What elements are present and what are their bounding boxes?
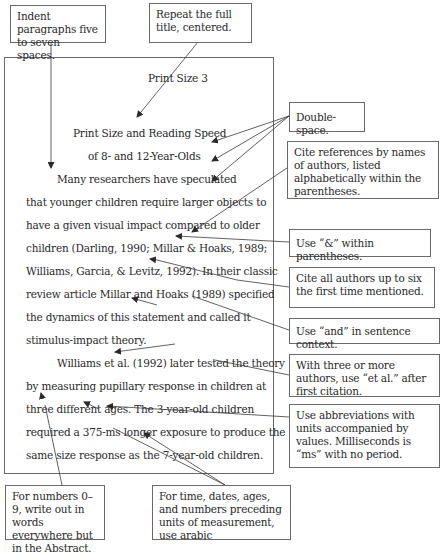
callout-use-ampersand: Use “&” within parentheses. xyxy=(289,229,431,257)
callout-arabic-numerals: For time, dates, ages, and numbers prece… xyxy=(152,485,291,540)
callout-et-al: With three or more authors, use “et al.”… xyxy=(289,354,440,397)
callout-use-and: Use “and” in sentence context. xyxy=(289,318,440,344)
title-line-2: of 8- and 12-Year-Olds xyxy=(88,150,201,162)
callout-cite-references: Cite references by names of authors, lis… xyxy=(287,141,439,199)
body-line: same size response as the 7-year-old chi… xyxy=(26,449,263,461)
title-line-1: Print Size and Reading Speed xyxy=(73,127,226,139)
body-line: Many researchers have speculated xyxy=(57,173,237,185)
body-line: required a 375-ms longer exposure to pro… xyxy=(26,426,285,438)
body-line: Williams et al. (1992) later tested the … xyxy=(57,357,285,369)
callout-double-space: Double-space. xyxy=(289,102,365,132)
body-line: the dynamics of this statement and calle… xyxy=(26,311,251,323)
body-line: three different ages. The 3-year-old chi… xyxy=(26,403,254,415)
body-line: children (Darling, 1990; Millar & Hoaks,… xyxy=(26,242,267,254)
body-line: stimulus-impact theory. xyxy=(26,334,146,346)
callout-repeat-title: Repeat the full title, centered. xyxy=(149,3,252,43)
body-line: that younger children require larger obj… xyxy=(26,196,266,208)
body-line: Williams, Garcia, & Levitz, 1992). In th… xyxy=(26,265,278,277)
callout-numbers-words: For numbers 0–9, write out in words ever… xyxy=(5,485,105,540)
callout-abbreviations: Use abbreviations with units accompanied… xyxy=(289,404,440,468)
callout-cite-all-authors: Cite all authors up to six the first tim… xyxy=(289,267,435,308)
body-line: have a given visual impact compared to o… xyxy=(26,219,260,231)
callout-indent: Indent paragraphs five to seven spaces. xyxy=(10,5,106,43)
body-line: review article Millar and Hoaks (1989) s… xyxy=(26,288,274,300)
body-line: by measuring pupillary response in child… xyxy=(26,380,266,392)
running-head: Print Size 3 xyxy=(148,72,208,84)
